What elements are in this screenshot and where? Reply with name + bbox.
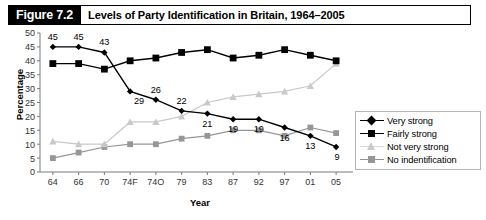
y-axis-tick-label: 35 xyxy=(25,70,35,80)
figure-container: Figure 7.2 Levels of Party Identificatio… xyxy=(0,0,486,220)
data-label: 45 xyxy=(48,32,58,42)
x-axis-tick-label: 79 xyxy=(177,177,187,187)
figure-title: Levels of Party Identification in Britai… xyxy=(81,6,344,24)
data-label: 26 xyxy=(151,85,161,95)
data-label: 9 xyxy=(335,152,340,162)
data-label: 16 xyxy=(280,133,290,143)
data-label: 29 xyxy=(134,96,144,106)
y-axis-tick-label: 0 xyxy=(30,167,35,177)
y-axis-tick-label: 30 xyxy=(25,84,35,94)
legend-marker-square-gray-icon xyxy=(359,154,385,166)
y-axis-tick-label: 10 xyxy=(25,140,35,150)
x-axis-tick-label: 74O xyxy=(147,177,164,187)
y-axis-tick-label: 45 xyxy=(25,42,35,52)
y-axis-tick-label: 20 xyxy=(25,112,35,122)
data-label: 19 xyxy=(254,124,264,134)
legend-label-not-very-strong: Not very strong xyxy=(385,142,449,152)
legend-item-not-very-strong: Not very strong xyxy=(359,140,477,153)
figure-number-badge: Figure 7.2 xyxy=(9,6,81,24)
data-label: 22 xyxy=(177,96,187,106)
chart-area: 0510152025303540455064667074F74O79838792… xyxy=(0,27,486,220)
y-axis-title: Percentage xyxy=(14,55,25,135)
data-label: 45 xyxy=(74,32,84,42)
legend-label-very-strong: Very strong xyxy=(385,116,433,126)
x-axis-tick-label: 64 xyxy=(48,177,58,187)
data-label: 43 xyxy=(99,37,109,47)
legend-marker-square-black-icon xyxy=(359,128,385,140)
y-axis-tick-label: 25 xyxy=(25,98,35,108)
legend-item-fairly-strong: Fairly strong xyxy=(359,127,477,140)
x-axis-tick-label: 05 xyxy=(331,177,341,187)
x-axis-tick-label: 70 xyxy=(99,177,109,187)
series-not-very-strong xyxy=(49,60,339,147)
data-label: 13 xyxy=(305,141,315,151)
x-axis-tick-label: 66 xyxy=(74,177,84,187)
x-axis-tick-label: 87 xyxy=(228,177,238,187)
legend-marker-triangle-icon xyxy=(359,141,385,153)
x-axis-tick-label: 92 xyxy=(254,177,264,187)
legend-item-no-identification: No indentification xyxy=(359,153,477,166)
series-no-indentification xyxy=(50,125,339,161)
legend-label-fairly-strong: Fairly strong xyxy=(385,129,437,139)
x-axis-tick-label: 83 xyxy=(202,177,212,187)
legend-label-no-identification: No indentification xyxy=(385,155,457,165)
y-axis-tick-label: 40 xyxy=(25,56,35,66)
x-axis-tick-label: 74F xyxy=(122,177,138,187)
legend-marker-diamond-icon xyxy=(359,115,385,127)
x-axis-tick-label: 97 xyxy=(280,177,290,187)
legend-item-very-strong: Very strong xyxy=(359,114,477,127)
x-axis-title: Year xyxy=(160,197,240,208)
data-label: 21 xyxy=(202,119,212,129)
data-label: 19 xyxy=(228,124,238,134)
y-axis-tick-label: 15 xyxy=(25,126,35,136)
series-very-strong xyxy=(50,44,340,150)
chart-legend: Very strong Fairly strong Not very stron… xyxy=(355,111,481,170)
y-axis-tick-label: 50 xyxy=(25,28,35,38)
y-axis-tick-label: 5 xyxy=(30,154,35,164)
x-axis-tick-label: 01 xyxy=(305,177,315,187)
figure-title-bar: Figure 7.2 Levels of Party Identificatio… xyxy=(8,5,471,25)
